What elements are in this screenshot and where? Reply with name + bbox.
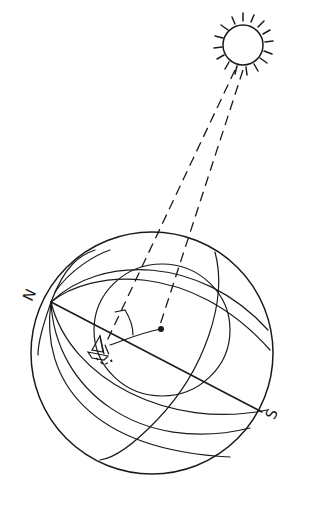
- sun-icon: [214, 13, 273, 75]
- sun-rays: [105, 70, 243, 362]
- sailboat-icon: [88, 336, 112, 365]
- diagram-canvas: [0, 0, 317, 508]
- globe: [31, 232, 273, 474]
